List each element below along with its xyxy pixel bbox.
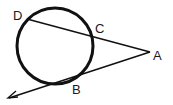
label-c: C [95,21,104,36]
secant-tangent-diagram: D C A B [0,0,173,105]
label-d: D [13,8,22,23]
label-a: A [153,48,162,63]
label-b: B [72,82,81,97]
secant-line-ad [27,19,150,52]
arrowhead-icon [8,91,18,98]
